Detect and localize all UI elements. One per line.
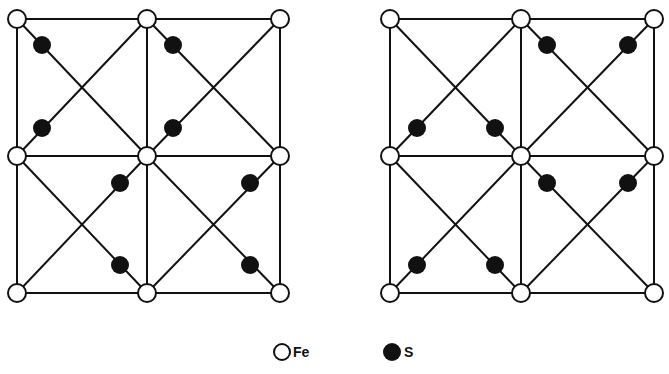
iron-atom [8, 284, 26, 302]
sulfur-atom [408, 119, 426, 137]
sulfur-atom [619, 36, 637, 54]
sulfur-atom [33, 36, 51, 54]
sulfur-atom [164, 119, 182, 137]
iron-atom [8, 10, 26, 28]
iron-atom [138, 284, 156, 302]
iron-atom [138, 147, 156, 165]
legend-fe-symbol-icon [274, 344, 290, 360]
sulfur-atom [111, 256, 129, 274]
iron-atom [381, 147, 399, 165]
iron-atom [645, 10, 663, 28]
iron-atom [8, 147, 26, 165]
right-lattice-diagram [381, 10, 663, 302]
sulfur-atom [33, 119, 51, 137]
iron-atom [138, 10, 156, 28]
iron-atom [271, 147, 289, 165]
crystal-structure-canvas [0, 0, 669, 374]
sulfur-atom [241, 174, 259, 192]
sulfur-atom [486, 256, 504, 274]
iron-atom [271, 10, 289, 28]
iron-atom [381, 284, 399, 302]
sulfur-atom [241, 256, 259, 274]
iron-atom [512, 10, 530, 28]
sulfur-atom [164, 36, 182, 54]
sulfur-atom [486, 119, 504, 137]
legend-s-symbol-icon [383, 343, 401, 361]
iron-atom [381, 10, 399, 28]
iron-atom [512, 284, 530, 302]
sulfur-atom [408, 256, 426, 274]
left-lattice-diagram [8, 10, 289, 302]
iron-atom [512, 147, 530, 165]
sulfur-atom [538, 174, 556, 192]
iron-atom [271, 284, 289, 302]
legend-fe-label: Fe [293, 344, 309, 360]
legend-s-label: S [404, 344, 413, 360]
iron-atom [645, 284, 663, 302]
sulfur-atom [538, 36, 556, 54]
sulfur-atom [619, 174, 637, 192]
sulfur-atom [111, 174, 129, 192]
iron-atom [645, 147, 663, 165]
